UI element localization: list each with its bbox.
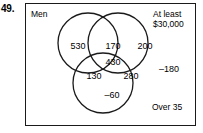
region-value-men-only: 530 xyxy=(70,41,85,51)
set-label-income: At least $30,000 xyxy=(153,10,184,29)
region-value-men-age: 130 xyxy=(86,71,101,81)
region-value-outside-all: –180 xyxy=(159,64,179,74)
problem-number-label: 49. xyxy=(1,3,14,14)
region-value-income-only: 200 xyxy=(137,41,152,51)
circle-over35 xyxy=(73,53,133,113)
region-value-all-three: 430 xyxy=(105,57,120,67)
region-value-income-age: 280 xyxy=(123,71,138,81)
venn-diagram-figure: 49. Men At least $30,000 Over 35 530 170… xyxy=(0,0,203,133)
region-value-men-income: 170 xyxy=(105,41,120,51)
set-label-men: Men xyxy=(31,10,48,20)
region-value-age-only: –60 xyxy=(104,90,119,100)
set-label-over35: Over 35 xyxy=(152,103,182,113)
